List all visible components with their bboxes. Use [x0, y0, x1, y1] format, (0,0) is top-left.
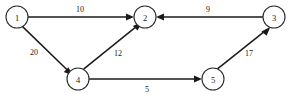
- node-1-label: 1: [15, 13, 19, 23]
- edge-weight-4-to-5: 5: [145, 85, 149, 94]
- node-2-label: 2: [143, 13, 147, 23]
- node-4[interactable]: 4: [67, 68, 89, 90]
- edge-3-to-2-arrowhead: [156, 14, 164, 21]
- edge-weight-1-to-2: 10: [76, 5, 84, 14]
- edge-1-to-2-arrowhead: [126, 14, 134, 21]
- edge-1-to-2: [28, 14, 134, 21]
- graph-canvas: 1 2 3 4 5 10 9 20 12: [0, 0, 290, 97]
- node-1[interactable]: 1: [6, 6, 28, 28]
- edge-4-to-2: [84, 22, 143, 69]
- edge-weight-4-to-2: 12: [114, 49, 122, 58]
- node-5[interactable]: 5: [202, 68, 224, 90]
- edge-3-to-2: [156, 14, 263, 21]
- edge-weight-3-to-2: 9: [206, 5, 210, 14]
- edge-4-to-5-arrowhead: [194, 76, 202, 83]
- edge-weight-5-to-3: 17: [245, 49, 253, 58]
- edge-5-to-3: [218, 27, 271, 69]
- node-3[interactable]: 3: [263, 6, 285, 28]
- edge-weight-1-to-4: 20: [30, 48, 38, 57]
- edge-5-to-3-arrowhead: [262, 27, 271, 36]
- edge-4-to-2-line: [84, 26, 138, 70]
- graph-diagram: 1 2 3 4 5 10 9 20 12: [0, 0, 290, 97]
- node-3-label: 3: [272, 13, 276, 23]
- edge-5-to-3-line: [218, 30, 266, 69]
- node-2[interactable]: 2: [134, 6, 156, 28]
- edge-4-to-5: [89, 76, 202, 83]
- node-5-label: 5: [211, 75, 215, 85]
